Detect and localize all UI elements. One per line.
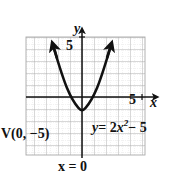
x-tick-label-5: 5 (129, 93, 136, 107)
equation-label: y= 2x2− 5 (92, 119, 147, 135)
equation-variable: x (117, 120, 124, 135)
axis-of-symmetry-label: x = 0 (58, 160, 87, 174)
equation-tail: − 5 (128, 120, 146, 135)
x-axis-label: x (150, 96, 157, 110)
graph-figure: y x 5 5 V(0, −5) x = 0 y= 2x2− 5 (0, 0, 183, 179)
equation-operator: = 2 (98, 120, 116, 135)
coordinate-plane (0, 0, 183, 179)
y-axis-label: y (74, 22, 80, 36)
y-tick-label-5: 5 (66, 39, 73, 53)
vertex-label: V(0, −5) (1, 127, 49, 141)
